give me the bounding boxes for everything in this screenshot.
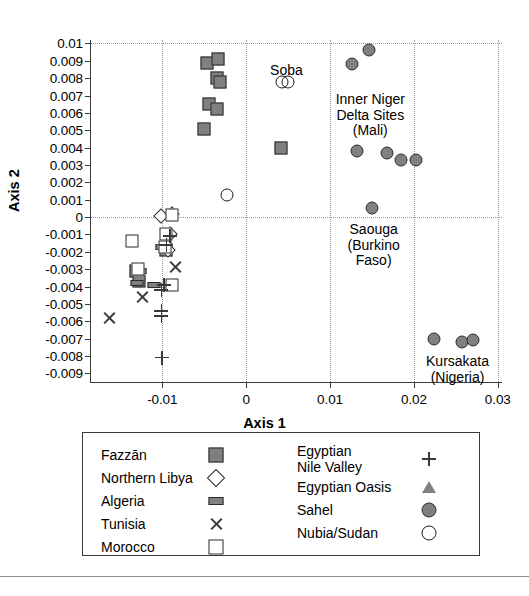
y-axis-tick bbox=[85, 252, 91, 253]
data-point-sahel bbox=[394, 153, 407, 166]
legend-item[interactable]: Fazzān bbox=[83, 443, 279, 466]
legend-marker-open-circle bbox=[422, 525, 437, 540]
y-axis-tick-label: 0.01 bbox=[57, 36, 83, 51]
plot-area: SobaInner Niger Delta Sites (Mali)Saouga… bbox=[90, 40, 502, 383]
annotation-saouga: Saouga (Burkino Faso) bbox=[348, 222, 400, 269]
x-gridline bbox=[498, 40, 499, 382]
data-point-egyptian-nile-valley bbox=[154, 309, 168, 323]
data-point-egyptian-nile-valley bbox=[159, 238, 173, 252]
y-axis-tick bbox=[85, 200, 91, 201]
data-point-sahel bbox=[381, 146, 394, 159]
x-axis-tick-label: -0.01 bbox=[147, 392, 177, 407]
y-axis-tick-label: -0.007 bbox=[45, 331, 83, 346]
legend-item-label: Egyptian Oasis bbox=[297, 479, 391, 495]
legend-item-label: Morocco bbox=[101, 539, 155, 555]
page-divider bbox=[0, 576, 529, 577]
legend-item[interactable]: Egyptian Oasis bbox=[279, 475, 481, 498]
y-axis-tick-label: 0.002 bbox=[50, 175, 83, 190]
y-axis-tick bbox=[85, 321, 91, 322]
x-axis-label: Axis 1 bbox=[0, 415, 529, 431]
legend: FazzānNorthern LibyaAlgeriaTunisiaMorocc… bbox=[82, 432, 480, 556]
x-axis-tick bbox=[414, 382, 415, 388]
y-axis-tick-label: 0.009 bbox=[50, 53, 83, 68]
data-point-fazzan bbox=[198, 122, 211, 135]
legend-item-label: Tunisia bbox=[101, 516, 146, 532]
legend-marker-filled-grey-square bbox=[209, 447, 224, 462]
y-axis-tick-label: -0.005 bbox=[45, 296, 83, 311]
data-point-morocco bbox=[131, 263, 144, 276]
legend-marker-filled-grey-rect bbox=[209, 497, 224, 505]
y-axis-tick bbox=[85, 61, 91, 62]
x-axis-tick bbox=[246, 382, 247, 388]
data-point-tunisia bbox=[135, 289, 150, 304]
y-gridline bbox=[91, 217, 502, 218]
x-gridline bbox=[414, 40, 415, 382]
y-axis-tick bbox=[85, 165, 91, 166]
data-point-sahel bbox=[345, 58, 358, 71]
x-axis-tick bbox=[498, 382, 499, 388]
legend-item[interactable]: Morocco bbox=[83, 535, 279, 558]
y-axis-tick bbox=[85, 113, 91, 114]
legend-item-label: Nubia/Sudan bbox=[297, 525, 378, 541]
legend-column-left: FazzānNorthern LibyaAlgeriaTunisiaMorocc… bbox=[83, 433, 279, 555]
data-point-morocco bbox=[126, 235, 139, 248]
legend-item[interactable]: Tunisia bbox=[83, 512, 279, 535]
legend-marker-open-diamond bbox=[207, 468, 225, 486]
y-axis-tick-label: -0.004 bbox=[45, 279, 83, 294]
annotation-inner-niger: Inner Niger Delta Sites (Mali) bbox=[336, 92, 405, 139]
y-gridline bbox=[91, 43, 502, 44]
data-point-sahel bbox=[350, 145, 363, 158]
legend-column-right: Egyptian Nile ValleyEgyptian OasisSahelN… bbox=[279, 433, 481, 555]
y-axis-tick-label: -0.009 bbox=[45, 366, 83, 381]
data-point-sahel bbox=[467, 334, 480, 347]
legend-marker-open-square bbox=[209, 539, 224, 554]
y-axis-tick-label: 0.005 bbox=[50, 123, 83, 138]
data-point-sahel bbox=[410, 153, 423, 166]
y-axis-tick-label: -0.008 bbox=[45, 348, 83, 363]
data-point-sahel bbox=[428, 332, 441, 345]
y-axis-tick bbox=[85, 43, 91, 44]
y-axis-tick bbox=[85, 130, 91, 131]
y-axis-tick-label: 0.001 bbox=[50, 192, 83, 207]
data-point-sahel bbox=[362, 44, 375, 57]
legend-marker-plus bbox=[422, 452, 436, 466]
legend-item-label: Northern Libya bbox=[101, 470, 193, 486]
legend-item-label: Sahel bbox=[297, 502, 333, 518]
x-gridline bbox=[330, 40, 331, 382]
legend-item[interactable]: Sahel bbox=[279, 498, 481, 521]
legend-item[interactable]: Northern Libya bbox=[83, 466, 279, 489]
annotation-soba: Soba bbox=[270, 63, 303, 79]
x-axis-tick-label: 0.02 bbox=[401, 392, 427, 407]
y-axis-tick bbox=[85, 234, 91, 235]
y-axis-tick-label: 0.007 bbox=[50, 88, 83, 103]
y-axis-tick bbox=[85, 78, 91, 79]
y-axis-tick bbox=[85, 373, 91, 374]
y-axis-tick-label: -0.001 bbox=[45, 227, 83, 242]
y-axis-tick bbox=[85, 148, 91, 149]
y-axis-tick-label: -0.002 bbox=[45, 244, 83, 259]
legend-item-label: Algeria bbox=[101, 493, 145, 509]
legend-item[interactable]: Algeria bbox=[83, 489, 279, 512]
y-axis-tick bbox=[85, 217, 91, 218]
legend-item[interactable]: Nubia/Sudan bbox=[279, 521, 481, 544]
x-axis-tick-label: 0.01 bbox=[317, 392, 343, 407]
data-point-fazzan bbox=[214, 75, 227, 88]
y-axis-tick bbox=[85, 304, 91, 305]
data-point-morocco bbox=[165, 209, 178, 222]
legend-item-label: Egyptian Nile Valley bbox=[297, 443, 362, 475]
y-axis-tick bbox=[85, 339, 91, 340]
legend-item-label: Fazzān bbox=[101, 447, 147, 463]
data-point-nubia-sudan bbox=[220, 188, 233, 201]
legend-marker-filled-grey-circle bbox=[422, 502, 437, 517]
x-axis-tick bbox=[330, 382, 331, 388]
y-axis-tick-label: 0.003 bbox=[50, 157, 83, 172]
y-axis-tick-label: -0.003 bbox=[45, 262, 83, 277]
data-point-fazzan bbox=[211, 53, 224, 66]
x-axis-tick-label: 0.03 bbox=[485, 392, 511, 407]
x-gridline bbox=[246, 40, 247, 382]
plot-canvas: SobaInner Niger Delta Sites (Mali)Saouga… bbox=[91, 40, 502, 382]
data-point-sahel bbox=[365, 202, 378, 215]
legend-item[interactable]: Egyptian Nile Valley bbox=[279, 443, 481, 475]
data-point-egyptian-nile-valley bbox=[154, 283, 168, 297]
y-axis-tick bbox=[85, 269, 91, 270]
